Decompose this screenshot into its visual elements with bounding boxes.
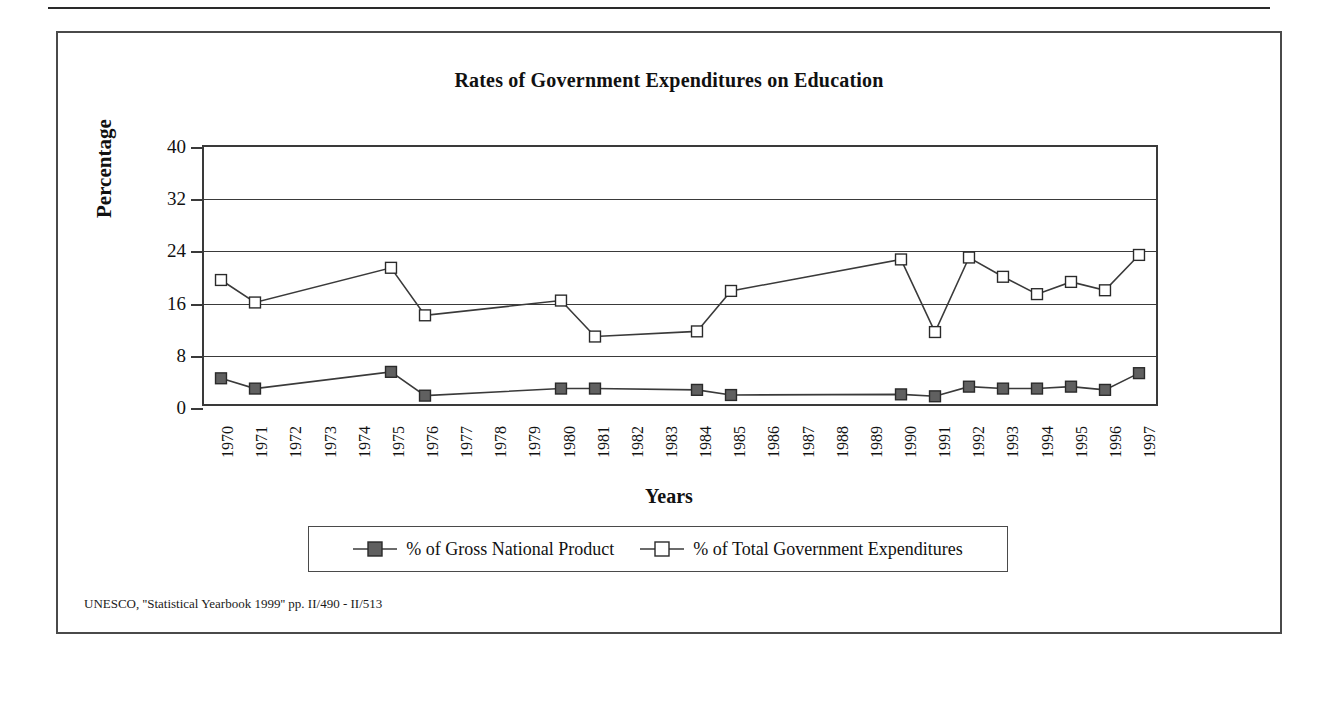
x-tick-label: 1972 <box>287 426 305 458</box>
open-square-marker <box>930 327 941 338</box>
open-square-marker <box>692 326 703 337</box>
filled-square-marker <box>964 381 975 392</box>
filled-square-marker <box>1134 368 1145 379</box>
x-axis-ticks: 1970197119721973197419751976197719781979… <box>202 410 1158 480</box>
legend-label-total-gov-exp: % of Total Government Expenditures <box>693 539 962 560</box>
x-tick-label: 1978 <box>492 426 510 458</box>
open-square-marker <box>590 331 601 342</box>
x-tick-label: 1995 <box>1073 426 1091 458</box>
legend-item-total-gov-exp: % of Total Government Expenditures <box>640 539 962 560</box>
x-tick-label: 1991 <box>936 426 954 458</box>
y-tick-label: 32 <box>167 188 186 210</box>
x-tick-label: 1970 <box>219 426 237 458</box>
x-axis-title: Years <box>58 485 1280 508</box>
series-layer <box>204 147 1156 404</box>
chart-legend: % of Gross National Product % of Total G… <box>308 526 1008 572</box>
source-citation: UNESCO, ''Statistical Yearbook 1999'' pp… <box>84 596 382 612</box>
x-tick-label: 1996 <box>1107 426 1125 458</box>
x-tick-label: 1985 <box>731 426 749 458</box>
chart-title: Rates of Government Expenditures on Educ… <box>58 69 1280 92</box>
page-root: Rates of Government Expenditures on Educ… <box>0 0 1317 703</box>
y-tick-label: 16 <box>167 293 186 315</box>
x-tick-label: 1986 <box>765 426 783 458</box>
open-square-marker <box>726 286 737 297</box>
y-tick-label: 24 <box>167 240 186 262</box>
y-tick-label: 0 <box>177 397 187 419</box>
plot-area: 0816243240 <box>202 145 1158 406</box>
filled-square-marker <box>386 366 397 377</box>
open-square-marker <box>1134 250 1145 261</box>
x-tick-label: 1971 <box>253 426 271 458</box>
y-tick-mark <box>191 304 203 306</box>
open-square-marker-icon <box>640 541 684 557</box>
x-tick-label: 1983 <box>663 426 681 458</box>
open-square-marker <box>420 310 431 321</box>
y-tick-mark <box>191 147 203 149</box>
filled-square-marker <box>1066 381 1077 392</box>
y-tick-label: 8 <box>177 345 187 367</box>
x-tick-label: 1982 <box>629 426 647 458</box>
x-tick-label: 1984 <box>697 426 715 458</box>
x-tick-label: 1990 <box>902 426 920 458</box>
open-square-marker <box>386 262 397 273</box>
open-square-marker <box>1100 285 1111 296</box>
series-line-1 <box>221 255 1139 337</box>
filled-square-marker <box>420 390 431 401</box>
x-tick-label: 1993 <box>1004 426 1022 458</box>
legend-item-gnp: % of Gross National Product <box>353 539 614 560</box>
filled-square-marker <box>998 383 1009 394</box>
open-square-marker <box>998 271 1009 282</box>
x-tick-label: 1981 <box>595 426 613 458</box>
x-tick-label: 1980 <box>561 426 579 458</box>
open-square-marker <box>216 275 227 286</box>
y-tick-mark <box>191 251 203 253</box>
y-tick-mark <box>191 199 203 201</box>
open-square-marker <box>896 254 907 265</box>
open-square-marker <box>1066 277 1077 288</box>
open-square-marker <box>250 297 261 308</box>
filled-square-marker <box>1100 384 1111 395</box>
x-tick-label: 1987 <box>800 426 818 458</box>
page-top-rule <box>48 7 1270 9</box>
filled-square-marker <box>896 389 907 400</box>
x-tick-label: 1979 <box>526 426 544 458</box>
legend-label-gnp: % of Gross National Product <box>406 539 614 560</box>
x-tick-label: 1997 <box>1141 426 1159 458</box>
filled-square-marker <box>250 383 261 394</box>
x-tick-label: 1974 <box>356 426 374 458</box>
x-tick-label: 1994 <box>1039 426 1057 458</box>
y-axis-title: Percentage <box>92 119 117 218</box>
x-tick-label: 1973 <box>322 426 340 458</box>
x-tick-label: 1988 <box>834 426 852 458</box>
x-tick-label: 1989 <box>868 426 886 458</box>
filled-square-marker <box>692 384 703 395</box>
y-tick-mark <box>191 356 203 358</box>
x-tick-label: 1976 <box>424 426 442 458</box>
open-square-marker <box>1032 289 1043 300</box>
filled-square-marker <box>216 373 227 384</box>
open-square-marker <box>964 252 975 263</box>
x-tick-label: 1977 <box>458 426 476 458</box>
filled-square-marker <box>556 383 567 394</box>
filled-square-marker <box>1032 383 1043 394</box>
filled-square-marker <box>590 383 601 394</box>
x-tick-label: 1992 <box>970 426 988 458</box>
filled-square-marker-icon <box>353 541 397 557</box>
y-tick-label: 40 <box>167 136 186 158</box>
filled-square-marker <box>726 390 737 401</box>
x-tick-label: 1975 <box>390 426 408 458</box>
open-square-marker <box>556 295 567 306</box>
figure-container: Rates of Government Expenditures on Educ… <box>56 31 1282 634</box>
filled-square-marker <box>930 391 941 402</box>
